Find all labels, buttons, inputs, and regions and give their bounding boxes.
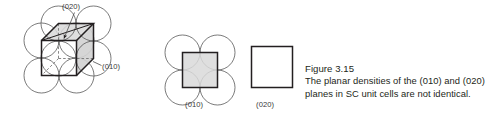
- panel-sc-unit-cell-3d: [24, 6, 111, 93]
- plane-label-020-top: (020): [62, 2, 80, 11]
- caption-text-line-1: The planar densities of the (010) and (0…: [305, 75, 495, 87]
- panel-plane-010: [165, 35, 235, 105]
- leader-line: [93, 62, 102, 66]
- caption-text-line-2: planes in SC unit cells are not identica…: [305, 88, 495, 100]
- plane-label-010-side: (010): [102, 62, 120, 71]
- plane-label-010-middle: (010): [185, 100, 203, 109]
- plane-label-020-right: (020): [256, 100, 274, 109]
- plane-020-square: [252, 47, 293, 88]
- figure-caption: Figure 3.15 The planar densities of the …: [305, 63, 495, 100]
- caption-figure-number: Figure 3.15: [305, 63, 495, 75]
- figure-3-15-container: (020) (010) (010) (020) Figure 3.15 The …: [0, 0, 498, 122]
- figure-illustration: [0, 0, 498, 122]
- plane-010-square: [183, 53, 218, 88]
- panel-plane-020: [252, 47, 293, 88]
- leader-010: [93, 62, 102, 66]
